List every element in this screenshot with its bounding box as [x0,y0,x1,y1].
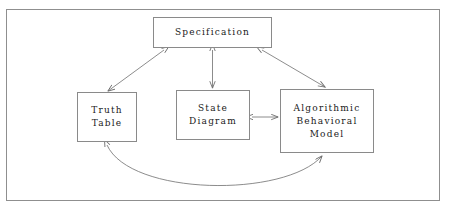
node-state-diagram-line-1: State [198,102,228,115]
node-state-diagram[interactable]: State Diagram [176,90,250,140]
node-abm-line-1: Algorithmic [294,102,361,115]
edge-spec-abm [262,50,325,87]
node-specification[interactable]: Specification [153,17,272,48]
node-abm-line-3: Model [310,128,345,141]
node-truth-table-line-1: Truth [91,104,123,117]
edge-spec-truth-table [108,50,164,91]
node-truth-table-line-2: Table [92,117,123,130]
node-algorithmic-behavioral-model[interactable]: Algorithmic Behavioral Model [280,89,374,153]
node-abm-line-2: Behavioral [296,115,357,128]
node-truth-table[interactable]: Truth Table [77,92,137,142]
diagram-canvas: Specification Truth Table State Diagram … [0,0,450,210]
node-state-diagram-line-2: Diagram [189,115,237,128]
node-specification-line-1: Specification [175,26,250,39]
